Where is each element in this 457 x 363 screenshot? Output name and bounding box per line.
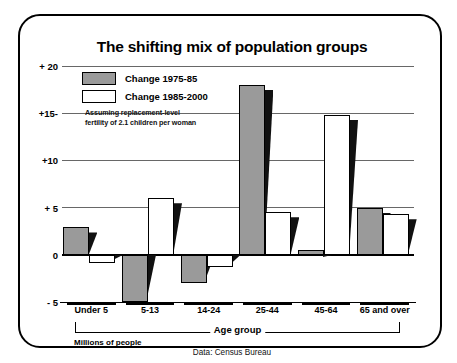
y-axis-tick-20: + 20 (39, 61, 58, 72)
y-axis-tick-5: + 5 (45, 202, 58, 213)
bar-shadow (173, 203, 182, 256)
y-axis-tick--5: - 5 (47, 297, 58, 308)
legend-label-series2: Change 1985-2000 (125, 91, 208, 102)
x-axis-label-5-13: 5-13 (141, 305, 159, 315)
bar-5-13-series1 (122, 255, 148, 302)
bar-65-and-over-series1 (357, 208, 383, 255)
legend-label-series1: Change 1975-85 (125, 73, 197, 84)
bar-45-64-series2 (324, 115, 350, 255)
bar-25-44-series1 (239, 85, 265, 255)
chart-title: The shifting mix of population groups (20, 38, 444, 56)
x-axis-label-14-24: 14-24 (197, 305, 220, 315)
bar-shadow (88, 232, 97, 255)
age-group-bracket: Age group (75, 322, 400, 334)
bar-shadow (147, 255, 156, 298)
bar-5-13-series2 (148, 198, 174, 255)
legend-item-series2: Change 1985-2000 (82, 90, 208, 103)
bar-shadow (408, 219, 417, 256)
bar-under-5-series2 (89, 255, 115, 263)
y-axis-units-label: Millions of people (74, 338, 142, 347)
legend-item-series1: Change 1975-85 (82, 72, 208, 85)
chart-figure: Robert McAuley—BW The shifting mix of po… (0, 0, 457, 363)
legend-swatch-series2 (82, 90, 116, 103)
legend-note: Assuming replacement-level fertility of … (85, 108, 208, 127)
y-axis-tick-10: +10 (42, 155, 58, 166)
gridline-20 (62, 66, 414, 67)
x-axis-labels: Under 55-1314-2425-4445-6465 and over (62, 305, 414, 319)
x-axis-label-under-5: Under 5 (75, 305, 109, 315)
gridline-10 (62, 160, 414, 161)
x-axis-label-65-and-over: 65 and over (360, 305, 410, 315)
y-axis-tick-0: 0 (53, 249, 58, 260)
bar-14-24-series1 (181, 255, 207, 283)
bar-14-24-series2 (207, 255, 233, 267)
bar-under-5-series1 (63, 227, 89, 254)
legend-swatch-series1 (82, 72, 116, 85)
bar-25-44-series2 (265, 212, 291, 254)
chart-frame: The shifting mix of population groups + … (18, 14, 442, 348)
source-caption: Data: Census Bureau (20, 348, 444, 357)
x-axis-label-25-44: 25-44 (256, 305, 279, 315)
y-axis-tick-15: +15- (39, 108, 58, 119)
bar-shadow (232, 255, 241, 263)
chart-legend: Change 1975-85 Change 1985-2000 Assuming… (82, 72, 208, 127)
legend-note-line1: Assuming replacement-level (85, 108, 208, 118)
bar-45-64-series1 (298, 250, 324, 255)
bar-65-and-over-series2 (383, 214, 409, 255)
legend-note-line2: fertility of 2.1 children per woman (85, 118, 208, 128)
bracket-right-tick (399, 322, 400, 333)
x-axis-label-45-64: 45-64 (314, 305, 337, 315)
x-axis-title: Age group (210, 324, 266, 335)
